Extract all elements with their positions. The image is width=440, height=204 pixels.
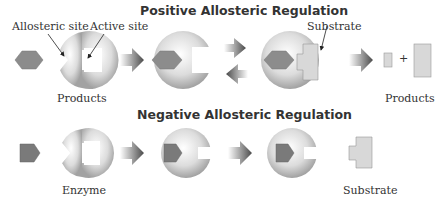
enzyme bbox=[58, 128, 114, 178]
substrate-unbound bbox=[349, 137, 372, 168]
reverse-arrow bbox=[226, 64, 248, 84]
inhibitor-molecule bbox=[20, 144, 40, 162]
enzyme-inactive bbox=[56, 31, 119, 89]
reaction-arrow bbox=[349, 48, 373, 72]
active-site-label: Active site bbox=[90, 20, 148, 33]
plus-sign: + bbox=[399, 52, 408, 65]
substrate-label: Substrate bbox=[307, 20, 361, 33]
enzyme-substrate-complex bbox=[261, 31, 319, 89]
forward-arrow bbox=[224, 38, 246, 58]
reaction-arrow bbox=[228, 141, 252, 165]
product-small bbox=[384, 53, 392, 67]
enzyme-label: Enzyme bbox=[62, 184, 106, 197]
allosteric-site-label: Allosteric site bbox=[12, 20, 89, 33]
products-label-right: Products bbox=[385, 92, 435, 105]
enzyme-activator-bound bbox=[152, 31, 216, 89]
substrate-label-negative: Substrate bbox=[343, 184, 397, 197]
activator-molecule bbox=[15, 51, 43, 69]
negative-regulation-title: Negative Allosteric Regulation bbox=[137, 107, 352, 122]
enzyme-inhibited bbox=[267, 128, 318, 178]
reaction-arrow bbox=[120, 48, 144, 72]
products-label-left: Products bbox=[57, 92, 107, 105]
positive-regulation-title: Positive Allosteric Regulation bbox=[140, 3, 348, 18]
product-large bbox=[414, 44, 431, 77]
allosteric-site-pointer bbox=[48, 34, 64, 56]
enzyme-inhibitor-bound bbox=[161, 128, 212, 178]
reaction-arrow bbox=[120, 141, 144, 165]
